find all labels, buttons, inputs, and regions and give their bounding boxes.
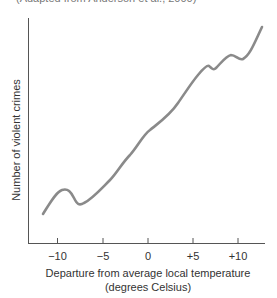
x-axis-title: Departure from average local temperature bbox=[46, 267, 251, 279]
data-line bbox=[43, 27, 262, 214]
x-ticks bbox=[58, 238, 239, 244]
line-chart: −10 −5 0 +5 +10 Departure from average l… bbox=[0, 0, 277, 298]
y-axis-title: Number of violent crimes bbox=[10, 79, 22, 201]
x-tick-label: −5 bbox=[97, 250, 110, 262]
x-tick-label: −10 bbox=[48, 250, 67, 262]
x-axis-title-line2: (degrees Celsius) bbox=[105, 281, 191, 293]
x-tick-label: +10 bbox=[229, 250, 248, 262]
x-tick-label: +5 bbox=[187, 250, 200, 262]
x-tick-label: 0 bbox=[145, 250, 151, 262]
